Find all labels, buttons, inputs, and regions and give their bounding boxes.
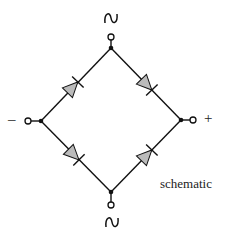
- negative-terminal: [25, 118, 31, 124]
- positive-label: +: [204, 110, 212, 127]
- negative-label: –: [8, 111, 16, 128]
- positive-node: [179, 118, 184, 123]
- ac-top-terminal: [108, 34, 114, 40]
- bridge-rectifier-schematic: [0, 0, 227, 245]
- positive-terminal: [190, 117, 196, 123]
- negative-node: [39, 119, 44, 124]
- top-node: [109, 46, 114, 51]
- ac-bottom-terminal: [108, 202, 114, 208]
- ac-bottom-symbol: [106, 218, 118, 227]
- ac-top-symbol: [105, 14, 117, 23]
- bottom-node: [109, 190, 114, 195]
- caption: schematic: [160, 176, 212, 192]
